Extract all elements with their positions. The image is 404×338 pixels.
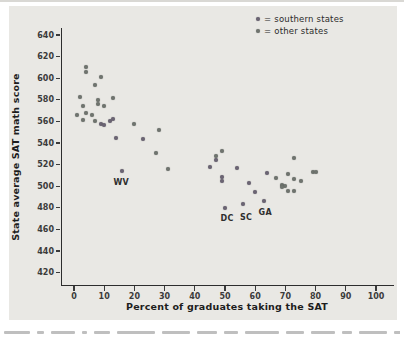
caption-fragment xyxy=(162,331,190,334)
data-point-other-states xyxy=(78,95,82,99)
caption-fragment xyxy=(359,331,387,334)
legend: = southern states = other states xyxy=(256,13,344,37)
y-axis-line xyxy=(61,28,62,286)
y-tick-mark xyxy=(56,99,60,100)
x-tick-label: 60 xyxy=(244,292,266,301)
x-tick-mark xyxy=(194,286,195,291)
data-point-other-states xyxy=(166,167,170,171)
y-tick-label: 640 xyxy=(26,31,54,40)
x-tick-mark xyxy=(73,286,74,291)
caption-fragment xyxy=(51,331,75,334)
y-tick-label: 420 xyxy=(26,268,54,277)
page-edge-strip xyxy=(0,0,404,2)
data-point-other-states xyxy=(93,83,97,87)
caption-fragment xyxy=(245,331,279,334)
state-label-DC: DC xyxy=(220,213,233,222)
x-tick-mark xyxy=(224,286,225,291)
caption-fragment xyxy=(342,331,352,334)
y-tick-label: 560 xyxy=(26,117,54,126)
data-point-other-states xyxy=(111,96,115,100)
state-label-WV: WV xyxy=(114,178,130,187)
caption-fragment xyxy=(311,331,335,334)
y-tick-label: 440 xyxy=(26,247,54,256)
x-axis-line xyxy=(61,285,394,286)
data-point-southern-states xyxy=(220,179,224,183)
y-tick-label: 580 xyxy=(26,95,54,104)
y-tick-mark xyxy=(56,142,60,143)
x-tick-label: 80 xyxy=(305,292,327,301)
data-point-southern-states xyxy=(235,166,239,170)
legend-label: southern states xyxy=(274,14,343,24)
x-tick-label: 90 xyxy=(335,292,357,301)
y-tick-mark xyxy=(56,207,60,208)
x-tick-label: 20 xyxy=(123,292,145,301)
caption-fragment xyxy=(197,331,217,334)
figure-screenshot: 4204404604805005205405605806006206400102… xyxy=(0,0,404,338)
data-point-southern-states xyxy=(102,123,106,127)
y-tick-label: 500 xyxy=(26,182,54,191)
x-tick-mark xyxy=(255,286,256,291)
data-point-other-states xyxy=(314,170,318,174)
x-tick-mark xyxy=(345,286,346,291)
data-point-southern-states xyxy=(241,202,245,206)
y-tick-mark xyxy=(56,186,60,187)
y-tick-label: 460 xyxy=(26,225,54,234)
y-axis-title: State average SAT math score xyxy=(10,73,21,241)
caption-fragment xyxy=(37,331,44,334)
legend-item-other-states: = other states xyxy=(256,25,344,37)
data-point-other-states xyxy=(214,154,218,158)
caption-fragment xyxy=(117,331,155,334)
caption-fragment xyxy=(394,331,400,334)
x-tick-label: 100 xyxy=(365,292,387,301)
legend-item-southern-states: = southern states xyxy=(256,13,344,25)
state-label-GA: GA xyxy=(259,208,272,217)
x-tick-label: 0 xyxy=(63,292,85,301)
x-axis-title: Percent of graduates taking the SAT xyxy=(61,301,393,312)
data-point-southern-states xyxy=(220,175,224,179)
x-tick-mark xyxy=(104,286,105,291)
y-tick-label: 620 xyxy=(26,52,54,61)
caption-fragment xyxy=(286,331,304,334)
y-tick-mark xyxy=(56,34,60,35)
y-tick-mark xyxy=(56,272,60,273)
data-point-southern-states xyxy=(253,190,257,194)
y-tick-label: 540 xyxy=(26,139,54,148)
data-point-other-states xyxy=(84,111,88,115)
state-label-SC: SC xyxy=(240,212,252,221)
x-tick-mark xyxy=(164,286,165,291)
data-point-other-states xyxy=(274,176,278,180)
legend-label: other states xyxy=(274,26,328,36)
y-tick-label: 600 xyxy=(26,74,54,83)
y-tick-mark xyxy=(56,56,60,57)
data-point-southern-states xyxy=(114,136,118,140)
x-tick-label: 50 xyxy=(214,292,236,301)
x-tick-label: 70 xyxy=(274,292,296,301)
y-tick-label: 480 xyxy=(26,203,54,212)
data-point-other-states xyxy=(157,128,161,132)
cut-off-caption xyxy=(4,331,400,335)
y-tick-mark xyxy=(56,164,60,165)
x-tick-mark xyxy=(285,286,286,291)
caption-fragment xyxy=(4,331,30,334)
y-tick-mark xyxy=(56,250,60,251)
x-tick-mark xyxy=(134,286,135,291)
y-tick-mark xyxy=(56,121,60,122)
chart-panel xyxy=(9,6,397,320)
data-point-other-states xyxy=(299,179,303,183)
southern-states-marker-icon xyxy=(256,17,260,21)
y-tick-mark xyxy=(56,229,60,230)
legend-equals-sign: = xyxy=(264,14,271,24)
y-tick-mark xyxy=(56,78,60,79)
data-point-southern-states xyxy=(208,165,212,169)
data-point-southern-states xyxy=(223,206,227,210)
data-point-other-states xyxy=(84,70,88,74)
y-tick-label: 520 xyxy=(26,160,54,169)
x-tick-mark xyxy=(315,286,316,291)
data-point-other-states xyxy=(154,151,158,155)
x-tick-label: 40 xyxy=(184,292,206,301)
caption-fragment xyxy=(224,331,238,334)
x-tick-mark xyxy=(375,286,376,291)
x-tick-label: 10 xyxy=(93,292,115,301)
caption-fragment xyxy=(82,331,87,334)
data-point-other-states xyxy=(220,149,224,153)
